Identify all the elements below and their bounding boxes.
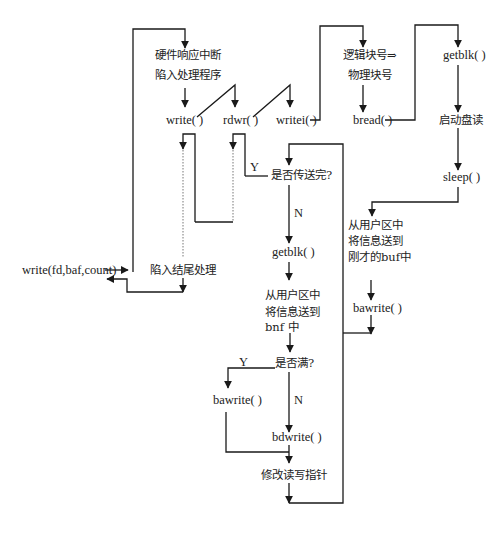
flowchart-svg: 硬件响应中断 陷入处理程序 write( ) rdwr( ) writei( )…	[0, 0, 503, 534]
edge-return-to-caller	[107, 279, 183, 292]
label-is-full-yes: Y	[239, 355, 248, 369]
label-transfer-done-no: N	[294, 206, 303, 220]
node-hw-interrupt-line2: 陷入处理程序	[155, 68, 221, 82]
label-transfer-done-yes: Y	[250, 160, 259, 174]
node-bawrite-left: bawrite( )	[213, 393, 262, 407]
node-bdwrite: bdwrite( )	[272, 430, 322, 444]
edge-is-full-yes	[228, 368, 275, 388]
label-is-full-no: N	[294, 393, 303, 407]
node-rdwr: rdwr( )	[223, 113, 258, 127]
edge-write-loop	[183, 134, 195, 222]
node-copy-right-line1: 从用户区中	[348, 218, 403, 232]
node-update-pointer: 修改读写指针	[261, 468, 327, 482]
node-writei: writei( )	[276, 113, 317, 127]
node-copy-center-line2: 将信息送到	[265, 305, 320, 319]
node-bread: bread( )	[353, 113, 392, 127]
node-is-full: 是否满?	[275, 356, 314, 370]
node-bawrite-right: bawrite( )	[353, 301, 402, 315]
flowchart-canvas: 硬件响应中断 陷入处理程序 write( ) rdwr( ) writei( )…	[0, 0, 503, 534]
node-getblk-center: getblk( )	[272, 245, 315, 259]
node-trap-end: 陷入结尾处理	[150, 263, 217, 277]
node-entry-call: write(fd,baf,count)	[22, 263, 116, 277]
node-hw-interrupt-line1: 硬件响应中断	[155, 48, 222, 62]
node-logic-block: 逻辑块号⇒	[343, 48, 397, 62]
edge-sleep-to-copy	[372, 187, 458, 216]
node-phys-block: 物理块号	[348, 68, 392, 82]
node-copy-center-line3: bnf 中	[265, 320, 299, 334]
edge-rdwr-loop	[233, 134, 245, 176]
node-write: write( )	[166, 113, 203, 127]
node-getblk-right: getblk( )	[443, 48, 486, 62]
node-sleep: sleep( )	[443, 170, 480, 184]
edge-bread-to-getblk	[385, 25, 458, 120]
node-transfer-done: 是否传送完?	[271, 168, 332, 182]
node-copy-center-line1: 从用户区中	[265, 288, 320, 302]
node-copy-right-line2: 将信息送到	[348, 234, 403, 248]
node-start-disk-read: 启动盘读	[439, 113, 484, 127]
edge-entry-to-interrupt	[133, 29, 185, 272]
node-copy-right-line3: 刚才的buf中	[348, 250, 411, 264]
nodes: 硬件响应中断 陷入处理程序 write( ) rdwr( ) writei( )…	[22, 48, 486, 482]
